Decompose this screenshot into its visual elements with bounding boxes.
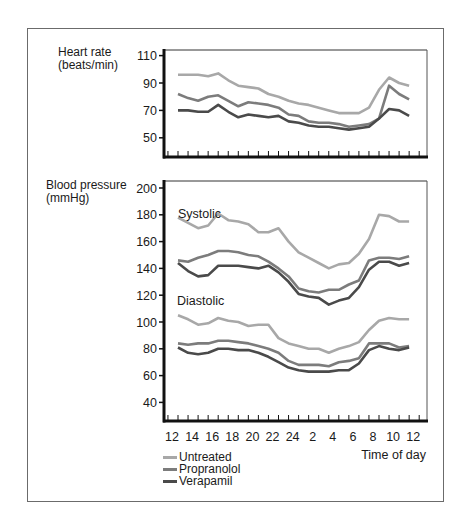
x-tick-label: 22 bbox=[266, 430, 280, 444]
diastolic-annotation: Diastolic bbox=[177, 294, 224, 308]
y-tick-label: 70 bbox=[143, 104, 157, 118]
legend-label: Verapamil bbox=[179, 475, 232, 487]
legend-swatch-icon bbox=[163, 468, 177, 471]
x-tick-label: 8 bbox=[370, 430, 377, 444]
heart-rate-chart: 507090110 bbox=[137, 49, 428, 159]
y-tick-label: 120 bbox=[136, 289, 157, 303]
y-tick-label: 200 bbox=[136, 182, 157, 196]
x-axis-title: Time of day bbox=[361, 448, 427, 462]
legend-swatch-icon bbox=[163, 456, 177, 459]
x-tick-label: 6 bbox=[349, 430, 356, 444]
legend: Untreated Propranolol Verapamil bbox=[163, 451, 240, 487]
legend-swatch-icon bbox=[163, 480, 177, 483]
series-line bbox=[178, 86, 409, 127]
x-tick-label: 10 bbox=[386, 430, 400, 444]
y-tick-label: 180 bbox=[136, 208, 157, 222]
chart-canvas: 5070901104060801001201401601802001214161… bbox=[0, 0, 467, 521]
x-tick-label: 16 bbox=[205, 430, 219, 444]
y-tick-label: 100 bbox=[136, 316, 157, 330]
x-tick-label: 12 bbox=[406, 430, 420, 444]
y-tick-label: 80 bbox=[143, 342, 157, 356]
x-tick-label: 14 bbox=[185, 430, 199, 444]
y-tick-label: 60 bbox=[143, 369, 157, 383]
y-tick-label: 40 bbox=[143, 396, 157, 410]
x-tick-label: 18 bbox=[225, 430, 239, 444]
series-line bbox=[178, 105, 409, 130]
y-tick-label: 50 bbox=[143, 131, 157, 145]
y-tick-label: 140 bbox=[136, 262, 157, 276]
y-tick-label: 90 bbox=[143, 77, 157, 91]
y-tick-label: 110 bbox=[137, 49, 157, 63]
y-tick-label: 160 bbox=[136, 235, 157, 249]
series-line bbox=[178, 346, 409, 372]
systolic-annotation: Systolic bbox=[178, 207, 221, 221]
x-tick-label: 2 bbox=[309, 430, 316, 444]
x-tick-label: 20 bbox=[245, 430, 259, 444]
legend-item-verapamil: Verapamil bbox=[163, 475, 240, 487]
x-tick-label: 12 bbox=[165, 430, 179, 444]
x-tick-label: 4 bbox=[329, 430, 336, 444]
x-tick-label: 24 bbox=[286, 430, 300, 444]
